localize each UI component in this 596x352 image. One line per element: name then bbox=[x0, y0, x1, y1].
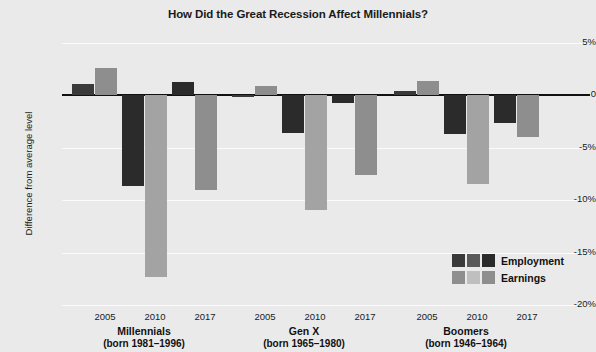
chart-legend: Employment Earnings bbox=[452, 253, 564, 287]
y-tick-label: -20% bbox=[544, 298, 596, 309]
chart-background bbox=[0, 0, 596, 352]
legend-row-earnings: Earnings bbox=[452, 270, 564, 285]
x-tick-label: 2005 bbox=[83, 311, 127, 322]
legend-label-employment: Employment bbox=[501, 255, 564, 267]
bar-gen-x-2017-earnings bbox=[355, 95, 377, 175]
bar-millennials-2017-employment bbox=[172, 82, 194, 96]
x-tick-label: 2005 bbox=[243, 311, 287, 322]
bar-gen-x-2017-employment bbox=[332, 95, 354, 102]
group-name-boomers: Boomers bbox=[381, 325, 551, 337]
gridline-5% bbox=[62, 43, 590, 44]
x-tick-label: 2005 bbox=[405, 311, 449, 322]
y-tick-label: -5% bbox=[544, 141, 596, 152]
bar-millennials-2005-employment bbox=[72, 84, 94, 96]
bar-millennials-2010-employment bbox=[122, 95, 144, 185]
x-tick-label: 2017 bbox=[183, 311, 227, 322]
bar-millennials-2017-earnings bbox=[195, 95, 217, 189]
bar-millennials-2010-earnings bbox=[145, 95, 167, 276]
y-tick-label: -10% bbox=[544, 193, 596, 204]
x-tick-label: 2010 bbox=[293, 311, 337, 322]
y-tick-label: 0 bbox=[544, 88, 596, 99]
y-tick-label: 5% bbox=[544, 36, 596, 47]
bar-boomers-2010-employment bbox=[444, 95, 466, 134]
bar-gen-x-2005-employment bbox=[232, 95, 254, 97]
x-tick-label: 2010 bbox=[133, 311, 177, 322]
legend-row-employment: Employment bbox=[452, 253, 564, 268]
bar-boomers-2005-earnings bbox=[417, 81, 439, 96]
bar-gen-x-2010-employment bbox=[282, 95, 304, 133]
legend-swatch-earnings-2017 bbox=[482, 271, 495, 284]
legend-swatch-earnings-2005 bbox=[452, 271, 465, 284]
bar-boomers-2017-employment bbox=[494, 95, 516, 122]
legend-swatch-employment-2010 bbox=[467, 254, 480, 267]
chart-container: How Did the Great Recession Affect Mille… bbox=[0, 0, 596, 352]
legend-swatch-employment-2017 bbox=[482, 254, 495, 267]
bar-boomers-2005-employment bbox=[394, 91, 416, 95]
group-name-gen-x: Gen X bbox=[219, 325, 389, 337]
group-born-millennials: (born 1981–1996) bbox=[59, 338, 229, 349]
group-born-gen-x: (born 1965–1980) bbox=[219, 338, 389, 349]
bar-boomers-2010-earnings bbox=[467, 95, 489, 184]
bar-gen-x-2005-earnings bbox=[255, 86, 277, 95]
legend-swatch-employment-2005 bbox=[452, 254, 465, 267]
legend-swatch-earnings-2010 bbox=[467, 271, 480, 284]
gridline--20% bbox=[62, 305, 590, 306]
bar-millennials-2005-earnings bbox=[95, 68, 117, 95]
bar-gen-x-2010-earnings bbox=[305, 95, 327, 209]
legend-label-earnings: Earnings bbox=[501, 272, 546, 284]
chart-title: How Did the Great Recession Affect Mille… bbox=[0, 8, 596, 20]
y-axis-label: Difference from average level bbox=[23, 64, 34, 284]
x-tick-label: 2010 bbox=[455, 311, 499, 322]
group-name-millennials: Millennials bbox=[59, 325, 229, 337]
group-born-boomers: (born 1946–1964) bbox=[381, 338, 551, 349]
x-tick-label: 2017 bbox=[505, 311, 549, 322]
x-tick-label: 2017 bbox=[343, 311, 387, 322]
bar-boomers-2017-earnings bbox=[517, 95, 539, 137]
